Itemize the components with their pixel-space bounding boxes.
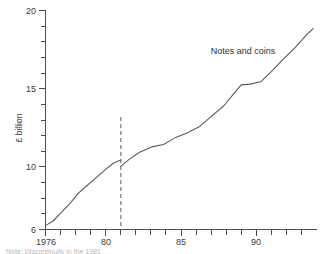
chart-page: 20 15 10 6 £ billion 19 <box>0 0 328 254</box>
y-tick-label-6: 6 <box>31 225 36 235</box>
x-tick-label-1985: 85 <box>176 237 186 247</box>
data-series-notes-and-coins <box>46 29 314 226</box>
series-segment-pre-break <box>46 160 121 226</box>
y-axis: 20 15 10 6 £ billion <box>14 6 46 235</box>
x-tick-label-1980: 80 <box>101 237 111 247</box>
notes-and-coins-line-chart: 20 15 10 6 £ billion 19 <box>0 0 328 254</box>
x-tick-label-1990: 90 <box>251 237 261 247</box>
x-axis: 1976 80 85 90 <box>36 230 317 248</box>
x-tick-label-1976: 1976 <box>36 237 56 247</box>
y-tick-label-15: 15 <box>26 84 36 94</box>
y-tick-label-10: 10 <box>26 162 36 172</box>
y-axis-title: £ billion <box>14 113 24 142</box>
y-tick-label-20: 20 <box>26 6 36 16</box>
chart-footnote: Note: Discontinuity in the 1981 <box>6 248 101 254</box>
annotation-notes-and-coins: Notes and coins <box>211 46 276 56</box>
chart-annotations: Notes and coins <box>211 46 276 56</box>
